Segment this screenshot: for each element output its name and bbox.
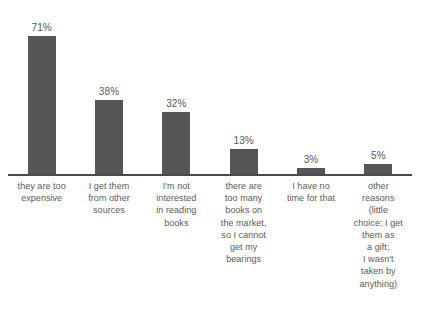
bar-group-2: 38% xyxy=(75,4,142,174)
bar-value-label: 5% xyxy=(371,150,386,162)
bars-container: 71% 38% 32% 13% 3% 5% xyxy=(8,4,412,174)
bar-rect[interactable] xyxy=(95,100,123,174)
bar-rect[interactable] xyxy=(230,149,258,174)
bar-group-4: 13% xyxy=(210,4,277,174)
plot-area: 71% 38% 32% 13% 3% 5% xyxy=(8,4,412,174)
category-labels-container: they are too expensive I get them from o… xyxy=(8,180,412,290)
category-label-4: there are too many books on the market, … xyxy=(210,180,277,265)
bar-group-5: 3% xyxy=(277,4,344,174)
bar-rect[interactable] xyxy=(364,164,392,174)
category-label-5: I have no time for that xyxy=(277,180,344,204)
bar-value-label: 71% xyxy=(32,22,52,34)
bar-value-label: 13% xyxy=(233,135,253,147)
bar-group-1: 71% xyxy=(8,4,75,174)
bar-group-6: 5% xyxy=(345,4,412,174)
category-label-2: I get them from other sources xyxy=(75,180,142,217)
bar-value-label: 32% xyxy=(166,98,186,110)
category-label-6: other reasons (little choice; I get them… xyxy=(345,180,412,290)
bar-chart: 71% 38% 32% 13% 3% 5% xyxy=(0,0,423,312)
category-label-3: I'm not interested in reading books xyxy=(143,180,210,229)
bar-group-3: 32% xyxy=(143,4,210,174)
bar-value-label: 3% xyxy=(304,154,319,166)
bar-value-label: 38% xyxy=(99,86,119,98)
bar-rect[interactable] xyxy=(162,112,190,174)
bar-rect[interactable] xyxy=(28,36,56,174)
x-axis-line xyxy=(8,174,412,176)
category-label-1: they are too expensive xyxy=(8,180,75,204)
